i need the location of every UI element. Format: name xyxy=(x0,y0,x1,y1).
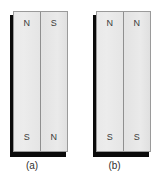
magnet-a-right: S N xyxy=(41,12,68,151)
pole-label-a-right-top: S xyxy=(41,19,68,28)
magnet-a-left: N S xyxy=(14,12,41,151)
figure-panel-b: N S N S (b) xyxy=(80,0,161,177)
figure-caption-a: (a) xyxy=(0,160,72,171)
pole-label-b-left-top: N xyxy=(97,19,123,28)
figure-caption-b: (b) xyxy=(74,160,155,171)
pole-label-b-left-bottom: S xyxy=(97,133,123,142)
magnet-b-left: N S xyxy=(97,12,124,151)
magnet-body-b: N S N S xyxy=(96,11,151,152)
pole-label-a-left-top: N xyxy=(14,19,40,28)
magnet-body-a: N S S N xyxy=(13,11,68,152)
pole-label-b-right-top: N xyxy=(124,19,151,28)
pole-label-a-left-bottom: S xyxy=(14,133,40,142)
pole-label-b-right-bottom: S xyxy=(124,133,151,142)
magnet-b-right: N S xyxy=(124,12,151,151)
pole-label-a-right-bottom: N xyxy=(41,133,68,142)
figure-panel-a: N S S N (a) xyxy=(0,0,80,177)
